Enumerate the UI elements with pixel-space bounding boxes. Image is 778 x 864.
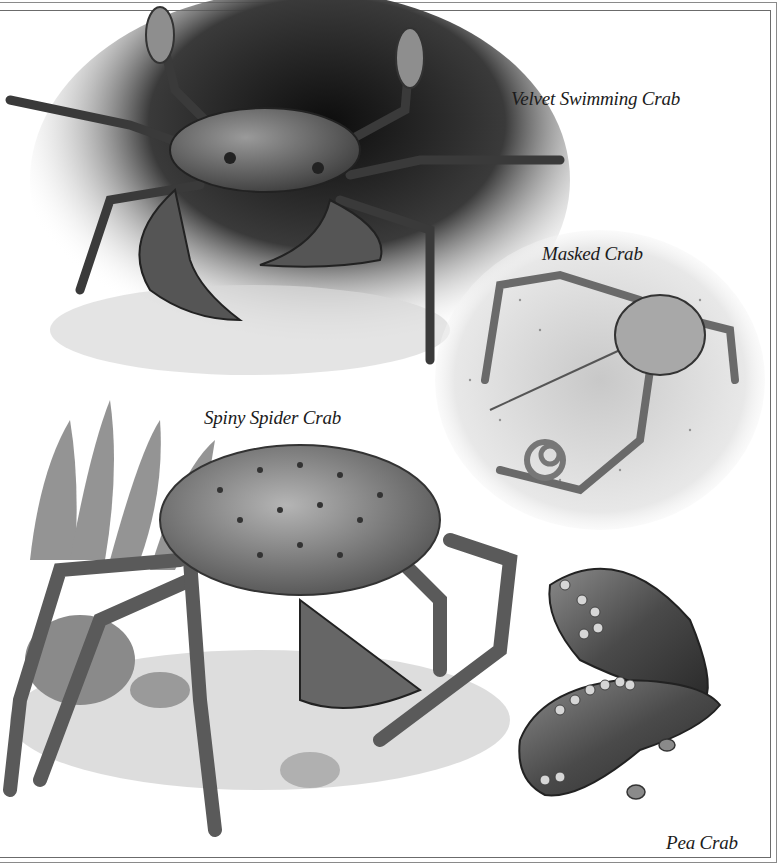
pea-crab-illustration xyxy=(519,569,720,799)
caption-pea-crab: Pea Crab xyxy=(666,832,738,854)
spiny-spider-crab-illustration xyxy=(10,400,510,830)
masked-crab-illustration xyxy=(435,230,765,530)
caption-masked-crab: Masked Crab xyxy=(542,243,643,265)
caption-spiny-spider-crab: Spiny Spider Crab xyxy=(204,407,341,429)
caption-velvet-swimming-crab: Velvet Swimming Crab xyxy=(511,88,680,110)
illustration-plate xyxy=(0,0,778,864)
